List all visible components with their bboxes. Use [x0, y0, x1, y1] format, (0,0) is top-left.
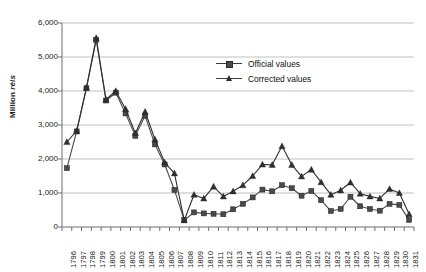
x-tick-label: 1810	[207, 251, 215, 268]
data-point-square	[211, 211, 216, 216]
data-point-square	[348, 194, 353, 199]
data-point-triangle	[142, 109, 148, 115]
data-point-square	[397, 202, 402, 207]
y-axis-title-italic: réis	[8, 75, 17, 90]
data-point-triangle	[210, 183, 216, 189]
y-tick-label: 0	[24, 223, 58, 231]
data-point-triangle	[191, 192, 197, 198]
data-point-square	[328, 209, 333, 214]
x-tick-label: 1825	[353, 251, 361, 268]
legend-item-corrected: Corrected values	[216, 71, 311, 86]
data-point-triangle	[230, 188, 236, 194]
chart-container: Million réis 01,0002,0003,0004,0005,0006…	[0, 0, 426, 272]
legend-label-official: Official values	[248, 59, 300, 69]
y-tick-label: 1,000	[24, 189, 58, 197]
data-point-square	[240, 201, 245, 206]
x-tick-label: 1807	[177, 251, 185, 268]
data-point-square	[309, 188, 314, 193]
data-point-triangle	[386, 186, 392, 192]
data-point-triangle	[279, 143, 285, 149]
x-tick-label: 1806	[168, 251, 176, 268]
data-point-square	[260, 187, 265, 192]
legend-marker-square-icon	[216, 59, 242, 69]
x-tick-label: 1828	[383, 251, 391, 268]
data-point-square	[289, 186, 294, 191]
data-point-square	[377, 208, 382, 213]
y-tick-label: 4,000	[24, 87, 58, 95]
x-tick-label: 1815	[256, 251, 264, 268]
y-tick-label: 2,000	[24, 155, 58, 163]
x-tick-label: 1799	[99, 251, 107, 268]
x-tick-label: 1800	[109, 251, 117, 268]
data-point-square	[387, 201, 392, 206]
data-point-square	[64, 166, 69, 171]
x-tick-label: 1827	[373, 251, 381, 268]
data-point-triangle	[406, 211, 412, 217]
y-tick-label: 3,000	[24, 121, 58, 129]
x-tick-label: 1809	[197, 251, 205, 268]
data-point-square	[319, 198, 324, 203]
chart-plot-area	[0, 0, 426, 272]
data-point-square	[270, 189, 275, 194]
data-point-square	[250, 195, 255, 200]
legend-marker-triangle-icon	[216, 74, 242, 84]
x-tick-label: 1801	[119, 251, 127, 268]
x-tick-label: 1797	[80, 251, 88, 268]
x-tick-label: 1808	[187, 251, 195, 268]
x-tick-label: 1819	[295, 251, 303, 268]
x-tick-label: 1803	[138, 251, 146, 268]
x-tick-label: 1821	[314, 251, 322, 268]
data-point-square	[221, 212, 226, 217]
x-tick-label: 1816	[265, 251, 273, 268]
data-point-square	[280, 183, 285, 188]
x-tick-label: 1813	[236, 251, 244, 268]
y-tick-label: 6,000	[24, 19, 58, 27]
x-tick-label: 1796	[70, 251, 78, 268]
y-axis-title: Million réis	[8, 57, 17, 137]
x-tick-label: 1814	[246, 251, 254, 268]
x-tick-label: 1804	[148, 251, 156, 268]
data-point-square	[231, 207, 236, 212]
x-tick-label: 1824	[344, 251, 352, 268]
x-tick-label: 1826	[363, 251, 371, 268]
data-point-triangle	[347, 179, 353, 185]
y-axis-tick-labels: 01,0002,0003,0004,0005,0006,000	[22, 0, 58, 272]
data-point-square	[172, 187, 177, 192]
x-tick-label: 1830	[402, 251, 410, 268]
data-point-square	[299, 193, 304, 198]
data-point-square	[358, 204, 363, 209]
x-tick-label: 1798	[89, 251, 97, 268]
y-tick-label: 5,000	[24, 53, 58, 61]
data-point-square	[201, 211, 206, 216]
data-point-square	[338, 206, 343, 211]
data-point-triangle	[308, 166, 314, 172]
x-tick-label: 1817	[275, 251, 283, 268]
x-tick-label: 1829	[393, 251, 401, 268]
x-tick-label: 1823	[334, 251, 342, 268]
x-tick-label: 1831	[412, 251, 420, 268]
x-tick-label: 1802	[129, 251, 137, 268]
x-tick-label: 1818	[285, 251, 293, 268]
data-point-square	[192, 210, 197, 215]
chart-legend: Official values Corrected values	[216, 56, 311, 86]
x-tick-label: 1805	[158, 251, 166, 268]
data-point-triangle	[289, 162, 295, 168]
legend-item-official: Official values	[216, 56, 311, 71]
x-tick-label: 1811	[217, 252, 225, 268]
x-tick-label: 1822	[324, 251, 332, 268]
legend-label-corrected: Corrected values	[248, 74, 311, 84]
x-tick-label: 1820	[305, 251, 313, 268]
data-point-square	[368, 206, 373, 211]
data-point-square	[407, 217, 412, 222]
x-tick-label: 1812	[226, 251, 234, 268]
y-axis-title-plain: Million	[8, 90, 17, 118]
